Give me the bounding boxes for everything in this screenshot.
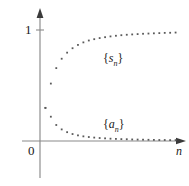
data-point (115, 35, 117, 37)
data-point (110, 138, 112, 140)
an-symbol: a (109, 117, 115, 131)
data-point (164, 32, 166, 34)
data-point (61, 129, 63, 131)
data-point (137, 33, 139, 35)
y-axis-tick-label-one: 1 (25, 23, 32, 36)
data-point (82, 135, 84, 137)
y-axis-arrowhead (37, 8, 44, 18)
data-point (175, 32, 177, 34)
data-point (126, 138, 128, 140)
data-point (148, 33, 150, 35)
data-point (126, 34, 128, 36)
data-point (61, 58, 63, 60)
data-point (66, 131, 68, 133)
data-point (88, 136, 90, 138)
data-point (169, 139, 171, 141)
data-point (72, 133, 74, 135)
data-point (99, 37, 101, 39)
data-point (104, 137, 106, 139)
data-point (93, 137, 95, 139)
data-point (142, 139, 144, 141)
data-point (153, 32, 155, 34)
origin-label: 0 (28, 144, 35, 157)
series-sn-points (45, 32, 177, 109)
series-label-sn: {sn} (103, 52, 123, 67)
data-point (148, 139, 150, 141)
data-point (137, 139, 139, 141)
sn-close-brace: } (117, 51, 123, 65)
data-point (66, 52, 68, 54)
data-point (45, 107, 47, 109)
data-point (88, 40, 90, 42)
data-point (120, 34, 122, 36)
data-point (158, 139, 160, 141)
data-point (120, 138, 122, 140)
data-point (55, 124, 57, 126)
sequence-plot-figure: 1 0 n {sn} {an} (0, 0, 189, 186)
data-point (110, 36, 112, 38)
data-point (164, 139, 166, 141)
series-label-an: {an} (103, 118, 125, 133)
data-point (115, 138, 117, 140)
x-axis-label-n: n (176, 145, 182, 157)
data-point (77, 134, 79, 136)
an-close-brace: } (119, 117, 125, 131)
data-point (50, 83, 52, 85)
data-point (175, 139, 177, 141)
data-point (99, 137, 101, 139)
data-point (104, 36, 106, 38)
data-point (82, 41, 84, 43)
an-subscript: n (115, 125, 119, 134)
data-point (142, 33, 144, 35)
data-point (72, 47, 74, 49)
data-point (131, 34, 133, 36)
data-point (50, 116, 52, 118)
sn-subscript: n (113, 59, 117, 68)
data-point (55, 67, 57, 69)
data-point (153, 139, 155, 141)
data-point (77, 44, 79, 46)
data-point (93, 38, 95, 40)
data-point (169, 32, 171, 34)
data-point (131, 139, 133, 141)
data-point (158, 32, 160, 34)
